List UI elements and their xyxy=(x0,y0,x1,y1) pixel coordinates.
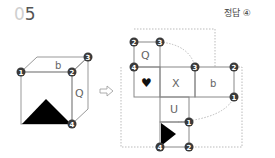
net-marker-4b-text: 4 xyxy=(158,144,163,152)
heart-icon: ♥ xyxy=(141,76,152,90)
marker-2-text: 2 xyxy=(70,69,75,77)
net-label-u: U xyxy=(170,103,178,116)
net-dashed-outline xyxy=(121,29,242,147)
net-marker-4a-text: 4 xyxy=(132,64,137,72)
marker-3-text: 3 xyxy=(86,54,91,62)
net-marker-1a-text: 1 xyxy=(232,94,237,102)
net-marker-2c-text: 2 xyxy=(187,144,192,152)
net-marker-2b-text: 2 xyxy=(232,64,237,72)
cube-right-label: Q xyxy=(75,87,84,100)
net-marker-3b-text: 3 xyxy=(193,64,198,72)
diagram-canvas: b Q 1 2 3 4 Q ♥ X b U 2 3 4 xyxy=(0,0,275,158)
cube-top-label: b xyxy=(55,60,61,71)
net-marker-1b-text: 1 xyxy=(187,119,192,127)
net-marker-2a-text: 2 xyxy=(132,39,137,47)
net-triangle-shape xyxy=(161,123,176,146)
net-label-q: Q xyxy=(141,49,150,62)
arrow-right-icon xyxy=(100,86,113,96)
net-label-x: X xyxy=(172,77,180,90)
marker-1-text: 1 xyxy=(19,69,24,77)
net-label-b: b xyxy=(210,78,216,89)
marker-4-text: 4 xyxy=(70,121,75,129)
net-marker-3a-text: 3 xyxy=(158,39,163,47)
cube-triangle-shape xyxy=(22,99,71,124)
